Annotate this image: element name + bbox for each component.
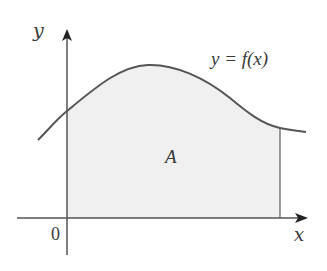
x-axis-label: x [294, 226, 304, 244]
area-label: A [165, 147, 177, 166]
shaded-area-region [67, 65, 280, 218]
function-label: y = f(x) [211, 49, 268, 68]
graph-canvas [0, 0, 327, 271]
origin-label: 0 [51, 225, 60, 243]
y-axis-label: y [33, 21, 44, 40]
area-under-curve-figure: y x 0 A y = f(x) [0, 0, 327, 271]
